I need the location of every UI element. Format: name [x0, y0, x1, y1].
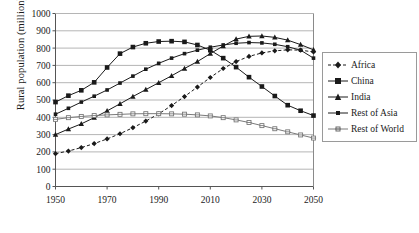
data-point [195, 43, 200, 48]
data-point [53, 100, 58, 105]
chart-legend: Africa China India Rest of Asia [322, 52, 417, 142]
data-point [208, 114, 213, 118]
legend-key-rest-of-asia [327, 107, 349, 119]
data-point [66, 148, 71, 153]
data-point [117, 101, 122, 106]
data-point [234, 59, 239, 64]
data-point [247, 41, 251, 45]
data-point [246, 54, 251, 59]
data-point [169, 112, 174, 116]
data-point [272, 127, 277, 131]
data-point [260, 41, 264, 45]
chart-container: Rural population (million) 0100200300400… [0, 0, 419, 233]
data-point [234, 41, 238, 45]
data-point [246, 120, 251, 124]
legend-item-india: India [327, 89, 414, 105]
data-point [143, 87, 148, 92]
y-tick-label: 0 [46, 182, 51, 192]
data-point [156, 112, 161, 116]
data-point [117, 131, 122, 136]
y-tick-label: 700 [36, 61, 51, 71]
data-point [221, 56, 226, 61]
data-point [143, 119, 148, 124]
data-point [259, 124, 264, 128]
data-point [234, 118, 239, 122]
legend-key-africa [327, 59, 349, 71]
data-point [118, 81, 122, 85]
y-tick-label: 600 [36, 78, 51, 88]
data-point [273, 42, 277, 46]
legend-key-india [327, 91, 349, 103]
data-point [79, 121, 84, 126]
data-point [273, 94, 278, 99]
data-point [143, 112, 148, 116]
legend-item-rest-of-world: Rest of World [327, 121, 414, 137]
y-tick-label: 900 [36, 26, 51, 36]
data-point [92, 141, 97, 146]
series-africa [53, 47, 316, 156]
data-point [144, 67, 148, 71]
data-point [156, 39, 161, 44]
data-point [131, 74, 135, 78]
data-point [285, 130, 290, 134]
y-tick-label: 200 [36, 147, 51, 157]
data-point [92, 94, 96, 98]
data-point [196, 48, 200, 52]
data-point [170, 56, 174, 60]
data-point [144, 41, 149, 46]
legend-label-africa: Africa [349, 60, 375, 70]
data-point [182, 94, 187, 99]
data-point [53, 117, 58, 121]
data-point [105, 88, 109, 92]
data-point [79, 114, 84, 118]
legend-label-india: Rest of Asia [349, 108, 397, 118]
data-point [195, 113, 200, 117]
series-india [53, 33, 316, 137]
y-tick-label: 1000 [32, 9, 51, 19]
data-point [183, 52, 187, 56]
data-point [105, 113, 110, 117]
data-point [195, 84, 200, 89]
y-tick-label: 800 [36, 44, 51, 54]
data-point [54, 112, 58, 116]
data-point [260, 84, 265, 89]
data-point [79, 145, 84, 150]
data-point [169, 73, 174, 78]
data-point [208, 75, 213, 80]
data-point [286, 45, 290, 49]
x-tick-label: 1990 [149, 195, 168, 205]
legend-label-rest-of-asia: India [349, 92, 371, 102]
data-point [298, 133, 303, 137]
data-point [209, 45, 213, 49]
x-tick-label: 2030 [252, 195, 271, 205]
legend-item-africa: Africa [327, 57, 414, 73]
x-tick-label: 2050 [304, 195, 323, 205]
data-point [79, 88, 84, 93]
y-tick-label: 100 [36, 165, 51, 175]
data-point [182, 40, 187, 45]
x-tick-label: 1970 [98, 195, 117, 205]
data-point [105, 65, 110, 70]
legend-item-china: China [327, 73, 414, 89]
data-point [259, 50, 264, 55]
legend-item-rest-of-asia: Rest of Asia [327, 105, 414, 121]
legend-key-rest-of-world [327, 123, 349, 135]
data-point [130, 125, 135, 130]
data-point [105, 136, 110, 141]
data-point [67, 107, 71, 111]
x-tick-label: 1950 [46, 195, 65, 205]
y-tick-label: 300 [36, 130, 51, 140]
data-point [285, 103, 290, 108]
data-point [221, 116, 226, 120]
data-point [221, 66, 226, 71]
data-point [312, 56, 316, 60]
data-point [131, 45, 136, 50]
data-point [311, 136, 316, 140]
data-point [272, 48, 277, 53]
data-point [117, 112, 122, 116]
y-tick-label: 500 [36, 95, 51, 105]
data-point [66, 93, 71, 98]
data-point [195, 59, 200, 64]
data-point [157, 62, 161, 66]
data-point [234, 65, 239, 70]
